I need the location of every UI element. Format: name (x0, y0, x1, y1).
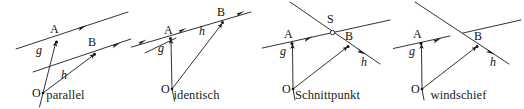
direction-arrow-left (138, 40, 147, 46)
point-b-marker (93, 53, 96, 56)
line-g-parallel (16, 12, 128, 49)
label-point-b: B (88, 35, 96, 49)
caption-parallel: parallel (0, 88, 131, 103)
label-line-g: g (36, 43, 42, 57)
direction-arrow-h (236, 11, 245, 17)
point-a-marker (55, 41, 58, 44)
point-a-marker (420, 42, 423, 45)
direction-arrow-h (112, 43, 121, 49)
caption-windschief: windschief (393, 88, 524, 103)
label-point-b: B (345, 29, 353, 43)
vector-oa-schnittpunkt (293, 46, 294, 89)
point-a-marker (169, 37, 172, 40)
label-line-g: g (158, 41, 164, 55)
vector-ob-identisch (172, 25, 221, 89)
point-a-marker (291, 42, 294, 45)
point-b-marker (347, 45, 350, 48)
point-b-marker (476, 45, 479, 48)
label-point-b: B (217, 5, 225, 19)
caption-schnittpunkt: Schnittpunkt (262, 88, 393, 103)
label-point-b: B (474, 29, 482, 43)
label-line-h: h (199, 24, 205, 38)
direction-arrow-g (78, 25, 87, 31)
label-intersection: S (327, 12, 334, 26)
direction-arrow-h (357, 49, 366, 55)
point-b-marker (221, 21, 224, 24)
caption-identisch: identisch (131, 88, 262, 103)
vector-ob-schnittpunkt (293, 48, 346, 89)
label-line-g: g (409, 44, 415, 58)
panel-windschief: A B O g h windschief (393, 0, 524, 109)
vector-oa-windschief (422, 46, 423, 89)
label-point-a: A (413, 27, 422, 41)
direction-arrow-g (178, 28, 187, 34)
line-relationships-figure: A B O g h parallel (0, 0, 524, 109)
direction-arrow-g (304, 36, 313, 42)
label-line-h: h (361, 55, 367, 69)
intersection-marker-s (330, 30, 334, 34)
label-point-a: A (164, 23, 173, 37)
label-line-h: h (490, 55, 496, 69)
vector-ob-windschief (422, 48, 475, 89)
panel-schnittpunkt: A B S O g h Schnittpunkt (262, 0, 393, 109)
panel-identisch: A B O g h identisch (131, 0, 262, 109)
label-point-a: A (284, 27, 293, 41)
panel-parallel: A B O g h parallel (0, 0, 131, 109)
label-point-a: A (50, 22, 59, 36)
label-line-h: h (61, 68, 67, 82)
line-h-parallel (33, 39, 131, 72)
vector-oa-identisch (171, 41, 172, 89)
line-gh-identisch (131, 11, 251, 49)
label-line-g: g (280, 44, 286, 58)
